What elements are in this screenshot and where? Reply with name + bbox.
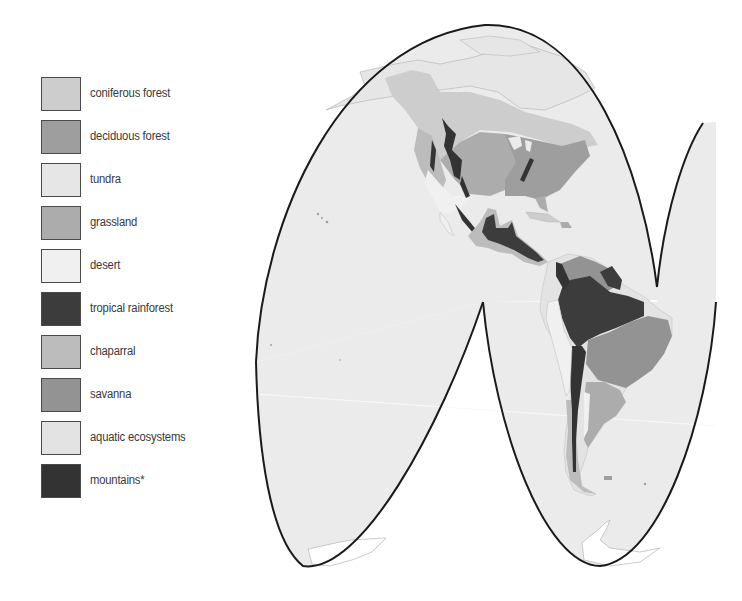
biome-map bbox=[0, 0, 742, 601]
